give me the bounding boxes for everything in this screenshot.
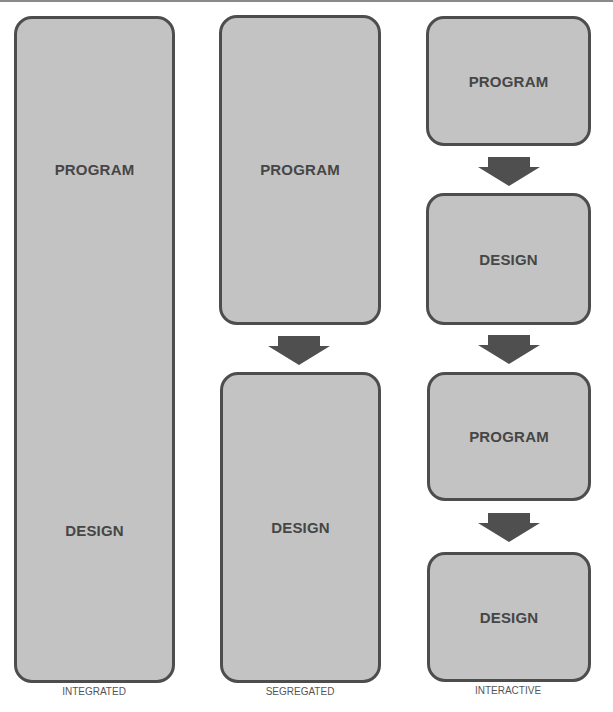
- interactive-program-box-1: PROGRAM: [426, 16, 591, 146]
- down-arrow-icon: [478, 335, 540, 365]
- interactive-program-box-2: PROGRAM: [427, 372, 591, 501]
- down-arrow-icon: [268, 336, 330, 366]
- caption-interactive: INTERACTIVE: [428, 685, 588, 696]
- interactive-program-label-1: PROGRAM: [469, 73, 549, 90]
- interactive-design-box-1: DESIGN: [426, 193, 591, 325]
- down-arrow-icon: [478, 157, 540, 187]
- integrated-design-label: DESIGN: [17, 522, 172, 539]
- segregated-program-box: PROGRAM: [219, 15, 381, 325]
- caption-integrated: INTEGRATED: [14, 686, 174, 697]
- integrated-box: PROGRAM DESIGN: [14, 16, 175, 683]
- top-rule: [0, 0, 613, 2]
- down-arrow-icon: [478, 513, 540, 543]
- integrated-program-label: PROGRAM: [17, 161, 172, 178]
- segregated-design-box: DESIGN: [220, 372, 381, 683]
- caption-segregated: SEGREGATED: [220, 686, 380, 697]
- interactive-design-label-1: DESIGN: [479, 251, 538, 268]
- interactive-program-label-2: PROGRAM: [469, 428, 549, 445]
- interactive-design-label-2: DESIGN: [480, 609, 539, 626]
- segregated-design-label: DESIGN: [271, 519, 330, 536]
- segregated-program-label: PROGRAM: [260, 161, 340, 178]
- interactive-design-box-2: DESIGN: [427, 552, 591, 682]
